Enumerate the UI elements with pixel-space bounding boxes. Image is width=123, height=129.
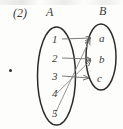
element-a-3: 3 [52,71,58,82]
mapping-diagram-figure: (2) A B 1 2 3 4 5 a b c [0,0,123,129]
set-b-label: B [99,5,106,17]
element-b-a: a [99,33,105,44]
arrow-4-to-b [57,60,91,93]
element-a-2: 2 [52,53,58,64]
arrow-1-to-a [62,38,91,39]
element-b-b: b [99,54,105,65]
bullet-dot-marker [9,69,12,72]
item-number-label: (2) [13,7,27,19]
set-a-label: A [46,6,53,18]
element-a-1: 1 [52,34,58,45]
element-a-5: 5 [52,108,58,119]
element-b-c: c [97,73,102,84]
element-a-4: 4 [52,88,58,99]
